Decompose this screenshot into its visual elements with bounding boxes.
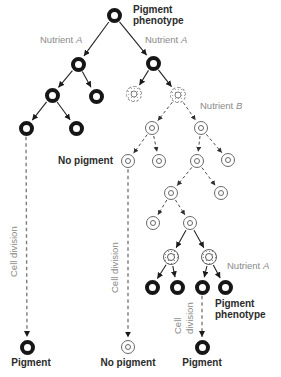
- cell-node-n15-plain: [164, 186, 178, 200]
- cell-node-n10-plain: [194, 121, 208, 135]
- arrow-n3-n5: [32, 102, 46, 120]
- cell-node-n21-pigment: [145, 280, 160, 295]
- arrow-n10-n14: [206, 134, 222, 152]
- arrow-n13-n15: [177, 167, 192, 185]
- result-pigment-left-label: Pigment: [8, 357, 54, 368]
- top-phenotype-line2: phenotype: [133, 15, 184, 26]
- cell-node-n9-plain: [145, 121, 159, 135]
- arrow-n19-n22: [173, 266, 175, 277]
- no-pigment-mid-label: No pigment: [58, 155, 113, 166]
- nutrient-letter: A: [76, 34, 82, 45]
- arrow-n5-n25: [26, 137, 27, 337]
- cell-node-n2-pigment: [146, 56, 161, 71]
- cell-node-n11-plain: [121, 154, 135, 168]
- result-no-pigment-label: No pigment: [95, 357, 161, 368]
- nutrient-word: Nutrient: [40, 34, 73, 45]
- arrow-n15-n18: [175, 200, 185, 215]
- arrow-n20-n24: [213, 265, 220, 278]
- arrow-n19-n21: [157, 265, 166, 279]
- nutrient-a-left-label: Nutrient A: [40, 34, 82, 45]
- cell-node-n12-plain: [152, 154, 166, 168]
- cell-node-n20-stippled: [201, 249, 217, 265]
- nutrient-word: Nutrient: [200, 100, 233, 111]
- cell-node-n16-plain: [214, 186, 228, 200]
- cell-node-n27-pigment: [195, 340, 210, 355]
- nutrient-a-bottom-label: Nutrient A: [227, 260, 269, 271]
- bottom-phenotype-label: Pigment phenotype: [215, 298, 266, 320]
- cell-node-n26-plain: [121, 340, 135, 354]
- nutrient-word: Nutrient: [145, 34, 178, 45]
- cell-node-n4-pigment: [89, 89, 104, 104]
- cell-node-n25-pigment: [20, 340, 35, 355]
- arrow-n18-n19: [176, 230, 186, 248]
- arrow-n13-n16: [202, 168, 215, 186]
- nutrient-a-right-label: Nutrient A: [145, 34, 187, 45]
- cell-node-n1-pigment: [71, 57, 86, 72]
- cell-division-right-label: Cell division: [172, 292, 196, 334]
- cell-node-n17-plain: [146, 216, 160, 230]
- arrow-n2-n7: [140, 70, 149, 85]
- arrow-n3-n6: [57, 102, 70, 120]
- cell-node-n7-stippled-dashed: [126, 86, 142, 102]
- arrow-n20-n23: [204, 266, 207, 277]
- arrow-n1-n3: [59, 71, 73, 88]
- cell-node-n0-pigment: [107, 8, 122, 23]
- nutrient-letter: A: [181, 34, 187, 45]
- cell-node-n14-plain: [221, 153, 235, 167]
- cell-node-n18-plain: [183, 216, 197, 230]
- arrow-n8-n9: [158, 102, 172, 120]
- arrow-n0-n2: [120, 22, 147, 55]
- cell-division-mid-label: Cell division: [109, 242, 121, 293]
- arrow-n9-n12: [154, 136, 157, 152]
- lineage-arrows: [0, 0, 281, 377]
- cell-node-n5-pigment: [19, 121, 34, 136]
- nutrient-letter: B: [236, 100, 242, 111]
- cell-node-n3-pigment: [45, 88, 60, 103]
- bottom-phenotype-line1: Pigment: [215, 298, 266, 309]
- cell-node-n8-stippled-dashed: [170, 87, 186, 103]
- nutrient-letter: A: [263, 260, 269, 271]
- diagram-canvas: Pigment phenotype Nutrient A Nutrient A …: [0, 0, 281, 377]
- top-phenotype-line1: Pigment: [133, 4, 184, 15]
- arrow-n10-n13: [198, 136, 200, 151]
- cell-node-n19-stippled: [163, 249, 179, 265]
- arrow-n15-n17: [158, 200, 167, 215]
- arrow-n2-n8: [158, 70, 171, 87]
- cell-node-n23-pigment: [195, 280, 210, 295]
- cell-node-n24-pigment: [218, 280, 233, 295]
- nutrient-b-label: Nutrient B: [200, 100, 242, 111]
- cell-node-n13-plain: [190, 154, 204, 168]
- bottom-phenotype-line2: phenotype: [215, 309, 266, 320]
- arrow-n8-n10: [183, 103, 195, 121]
- cell-division-left-label: Cell division: [8, 226, 20, 277]
- arrow-n18-n20: [194, 230, 204, 248]
- arrow-n9-n11: [134, 135, 148, 154]
- nutrient-word: Nutrient: [227, 260, 260, 271]
- edge-group: [26, 22, 222, 338]
- arrow-n0-n1: [84, 22, 109, 56]
- arrow-n1-n4: [82, 72, 91, 88]
- top-phenotype-label: Pigment phenotype: [133, 4, 184, 26]
- result-pigment-right-label: Pigment: [179, 357, 225, 368]
- cell-node-n6-pigment: [69, 121, 84, 136]
